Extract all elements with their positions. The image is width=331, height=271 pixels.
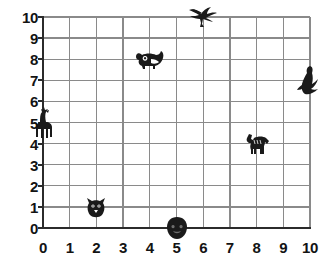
y-axis-tick-label: 0	[12, 221, 38, 236]
y-axis-tick-label: 5	[12, 115, 38, 130]
chart-grid	[0, 0, 331, 271]
y-axis-tick-label: 2	[12, 178, 38, 193]
x-axis-tick-labels: 012345678910	[0, 240, 331, 262]
y-axis-tick-label: 10	[12, 10, 38, 25]
x-axis-tick-label: 10	[295, 240, 325, 255]
x-axis-tick-label: 9	[268, 240, 298, 255]
y-axis-tick-label: 6	[12, 94, 38, 109]
y-axis-tick-label: 7	[12, 73, 38, 88]
x-axis-tick-label: 3	[108, 240, 138, 255]
x-axis-tick-label: 7	[215, 240, 245, 255]
y-axis-tick-label: 3	[12, 157, 38, 172]
y-axis-tick-labels: 012345678910	[8, 0, 38, 271]
x-axis-tick-label: 2	[81, 240, 111, 255]
x-axis-tick-label: 0	[28, 240, 58, 255]
x-axis-tick-label: 1	[55, 240, 85, 255]
x-axis-tick-label: 5	[162, 240, 192, 255]
x-axis-tick-label: 8	[242, 240, 272, 255]
y-axis-tick-label: 8	[12, 52, 38, 67]
y-axis-tick-label: 1	[12, 199, 38, 214]
animal-coordinate-grid-chart: 012345678910 012345678910	[0, 0, 331, 271]
y-axis-tick-label: 9	[12, 31, 38, 46]
x-axis-tick-label: 4	[135, 240, 165, 255]
y-axis-tick-label: 4	[12, 136, 38, 151]
x-axis-tick-label: 6	[188, 240, 218, 255]
